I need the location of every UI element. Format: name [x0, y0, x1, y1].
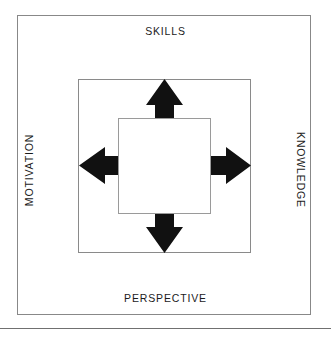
label-perspective: PERSPECTIVE: [0, 292, 331, 304]
label-skills: SKILLS: [0, 25, 331, 37]
label-motivation: MOTIVATION: [23, 134, 35, 206]
label-knowledge-wrap: KNOWLEDGE: [294, 118, 308, 222]
inner-square: [118, 118, 211, 214]
diagram-canvas: SKILLS PERSPECTIVE MOTIVATION KNOWLEDGE: [0, 0, 331, 338]
label-knowledge: KNOWLEDGE: [295, 132, 307, 208]
label-motivation-wrap: MOTIVATION: [22, 120, 36, 220]
